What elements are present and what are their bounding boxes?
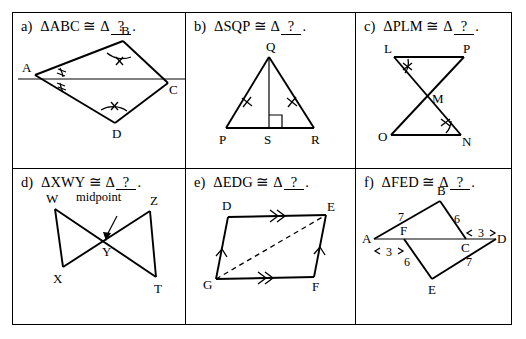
vertex-label-D: D	[112, 126, 121, 141]
panel-f: f) ΔFED ≅ Δ?.	[356, 169, 511, 325]
measure-AF: 3	[386, 245, 392, 259]
panel-d: d) ΔXWY ≅ Δ?. midpoint W	[13, 169, 186, 325]
measure-ED: 7	[466, 255, 472, 269]
vertex-label-A: A	[22, 60, 32, 75]
vertex-label-S: S	[264, 132, 271, 147]
vertex-label-C: C	[461, 240, 470, 255]
worksheet-sheet: a) ΔABC ≅ Δ?.	[0, 0, 526, 339]
panel-d-figure: midpoint W X Y Z T	[13, 169, 185, 325]
vertex-label-B: B	[121, 23, 130, 38]
panel-e: e) ΔEDG ≅ Δ?.	[186, 169, 356, 325]
measure-FE: 6	[404, 255, 410, 269]
vertex-label-L: L	[384, 41, 392, 56]
vertex-label-G: G	[203, 277, 212, 292]
vertex-label-A: A	[362, 231, 372, 246]
vertex-label-B: B	[437, 183, 446, 198]
midpoint-annotation: midpoint	[76, 190, 122, 204]
vertex-label-R: R	[311, 132, 320, 147]
panel-c-figure: L P M O N	[356, 13, 511, 168]
panel-a-figure: A B C D	[13, 13, 185, 168]
vertex-label-T: T	[154, 281, 162, 296]
panel-a: a) ΔABC ≅ Δ?.	[13, 13, 186, 169]
vertex-label-Q: Q	[266, 39, 276, 54]
panel-e-figure: D E G F	[186, 169, 355, 325]
panel-b: b) ΔSQP ≅ Δ?.	[186, 13, 356, 169]
vertex-label-P: P	[219, 132, 226, 147]
vertex-label-Z: Z	[150, 193, 158, 208]
measure-AB: 7	[398, 210, 404, 224]
vertex-label-E: E	[327, 199, 335, 214]
panel-b-figure: Q P S R	[186, 13, 355, 168]
vertex-label-W: W	[46, 191, 59, 206]
vertex-label-M: M	[432, 91, 444, 106]
vertex-label-F: F	[400, 223, 407, 238]
vertex-label-F: F	[312, 279, 319, 294]
vertex-label-P: P	[463, 41, 470, 56]
worksheet-grid: a) ΔABC ≅ Δ?.	[12, 12, 512, 325]
measure-BC: 6	[454, 212, 460, 226]
vertex-label-O: O	[378, 129, 387, 144]
vertex-label-C: C	[169, 82, 178, 97]
measure-CD: 3	[478, 226, 484, 240]
vertex-label-D: D	[497, 231, 506, 246]
panel-c: c) ΔPLM ≅ Δ?.	[356, 13, 511, 169]
vertex-label-Y: Y	[102, 244, 112, 259]
vertex-label-E: E	[428, 282, 436, 297]
vertex-label-D: D	[222, 198, 231, 213]
vertex-label-N: N	[462, 134, 472, 149]
panel-f-figure: 7 6 3 3 6 7 A B C D E F	[356, 169, 511, 325]
vertex-label-X: X	[53, 271, 63, 286]
